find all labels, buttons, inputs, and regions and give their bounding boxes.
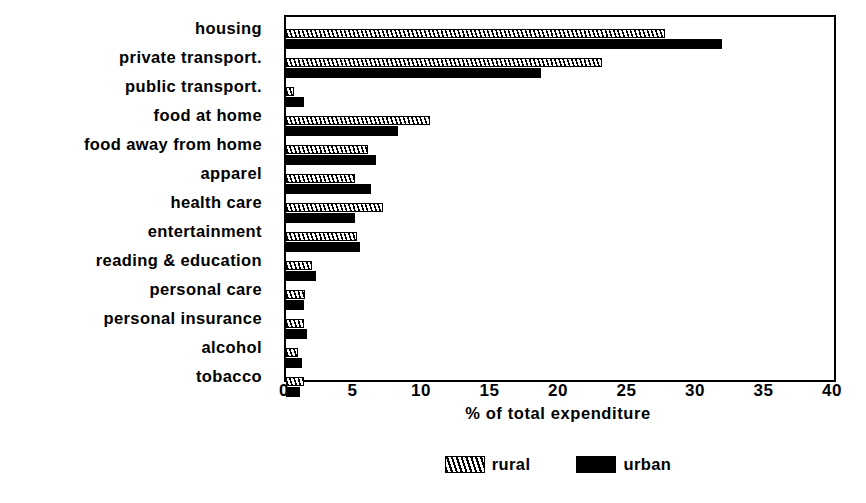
x-axis-tick: 15: [480, 381, 500, 401]
y-axis-label: housing: [0, 14, 268, 43]
bar-rural: [286, 348, 298, 357]
y-axis-label: reading & education: [0, 246, 268, 275]
y-axis-label: food at home: [0, 101, 268, 130]
bar-rural: [286, 290, 305, 299]
bar-group: [286, 58, 834, 87]
bar-urban: [286, 155, 376, 165]
bar-urban: [286, 242, 360, 252]
legend-entry: rural: [445, 455, 531, 474]
bar-rural: [286, 203, 383, 212]
bar-group: [286, 290, 834, 319]
y-axis-label: health care: [0, 188, 268, 217]
x-axis-tick: 20: [548, 381, 568, 401]
bars-container: [286, 17, 834, 380]
bar-group: [286, 203, 834, 232]
bar-group: [286, 174, 834, 203]
bar-chart: housingprivate transport.public transpor…: [0, 0, 866, 503]
bar-urban: [286, 68, 541, 78]
y-axis-label: alcohol: [0, 333, 268, 362]
bar-group: [286, 261, 834, 290]
bar-group: [286, 232, 834, 261]
bar-group: [286, 116, 834, 145]
bar-group: [286, 319, 834, 348]
x-axis-title: % of total expenditure: [284, 404, 832, 423]
y-axis-label: personal insurance: [0, 304, 268, 333]
bar-rural: [286, 174, 355, 183]
bar-urban: [286, 213, 355, 223]
bar-rural: [286, 58, 602, 67]
bar-rural: [286, 145, 368, 154]
bar-urban: [286, 358, 302, 368]
y-axis-label: entertainment: [0, 217, 268, 246]
bar-urban: [286, 184, 371, 194]
y-axis-label: tobacco: [0, 362, 268, 391]
bar-rural: [286, 29, 665, 38]
x-axis-tick-labels: 0510152025303540: [284, 381, 832, 403]
bar-rural: [286, 87, 294, 96]
bar-urban: [286, 271, 316, 281]
bar-urban: [286, 126, 398, 136]
x-axis-tick: 25: [617, 381, 637, 401]
y-axis-label: food away from home: [0, 130, 268, 159]
bar-rural: [286, 319, 304, 328]
y-axis-label: private transport.: [0, 43, 268, 72]
plot-area: [284, 15, 836, 382]
bar-rural: [286, 116, 430, 125]
legend-label: urban: [623, 455, 671, 474]
x-axis-tick: 0: [279, 381, 289, 401]
chart-legend: ruralurban: [284, 455, 832, 474]
y-axis-label: personal care: [0, 275, 268, 304]
legend-label: rural: [492, 455, 531, 474]
bar-group: [286, 348, 834, 377]
bar-urban: [286, 97, 304, 107]
hatched-swatch-icon: [445, 456, 485, 473]
bar-group: [286, 87, 834, 116]
bar-urban: [286, 329, 307, 339]
x-axis-tick: 35: [754, 381, 774, 401]
legend-entry: urban: [576, 455, 671, 474]
y-axis-label: apparel: [0, 159, 268, 188]
x-axis-tick: 30: [685, 381, 705, 401]
y-axis-label: public transport.: [0, 72, 268, 101]
bar-group: [286, 145, 834, 174]
bar-urban: [286, 39, 722, 49]
bar-rural: [286, 232, 357, 241]
x-axis-tick: 10: [411, 381, 431, 401]
bar-group: [286, 29, 834, 58]
x-axis-tick: 40: [822, 381, 842, 401]
y-axis-category-labels: housingprivate transport.public transpor…: [0, 14, 268, 391]
solid-swatch-icon: [576, 456, 616, 473]
bar-urban: [286, 300, 304, 310]
bar-rural: [286, 261, 312, 270]
x-axis-tick: 5: [348, 381, 358, 401]
